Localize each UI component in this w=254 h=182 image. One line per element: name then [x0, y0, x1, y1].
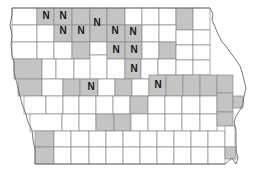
county-shaded [107, 8, 125, 25]
county-label-n: N [59, 10, 66, 21]
county [37, 25, 54, 42]
county-label-n: N [42, 10, 49, 21]
county-shaded [166, 75, 183, 96]
county [12, 8, 37, 25]
county-shaded [115, 79, 132, 96]
county [12, 42, 37, 59]
county-label-n: N [130, 44, 137, 55]
county-shaded [96, 114, 114, 131]
county-label-n: N [77, 25, 84, 36]
county-shaded [35, 131, 54, 147]
county [131, 114, 148, 131]
county [123, 131, 140, 147]
county-shaded [176, 8, 193, 30]
county [208, 131, 225, 147]
county-shaded [217, 93, 233, 112]
county [142, 25, 159, 42]
county-label-n: N [130, 63, 137, 74]
county-shaded [183, 75, 200, 96]
county-shaded [35, 147, 54, 164]
county [165, 96, 182, 114]
county [125, 8, 142, 25]
county-shaded [72, 8, 90, 25]
county [63, 96, 79, 114]
county [90, 42, 107, 55]
county [174, 147, 191, 164]
county [157, 147, 174, 164]
county [37, 42, 54, 59]
county [142, 42, 159, 59]
county [157, 131, 174, 147]
county-shaded [14, 59, 42, 79]
county-label-n: N [112, 44, 119, 55]
county [56, 59, 74, 79]
county [89, 131, 106, 147]
county [106, 131, 123, 147]
county [182, 96, 200, 114]
county [79, 114, 96, 131]
county-label-n: N [59, 25, 66, 36]
county [12, 25, 37, 42]
county [107, 59, 125, 79]
county-shaded [90, 25, 107, 42]
county-label-n: N [87, 81, 94, 92]
county-shaded [130, 96, 148, 114]
county [158, 59, 176, 75]
county-layer [12, 8, 243, 164]
county-label-n: N [93, 17, 100, 28]
county [71, 147, 89, 164]
county [123, 147, 140, 164]
county [208, 147, 225, 164]
county [148, 96, 165, 114]
county-shaded [217, 112, 233, 126]
county [148, 114, 165, 131]
county [182, 114, 200, 131]
county [98, 79, 115, 96]
county [96, 96, 113, 114]
county-shaded [159, 42, 176, 59]
county [200, 114, 217, 131]
county [71, 131, 89, 147]
county [42, 79, 63, 96]
county [24, 96, 46, 114]
county [193, 60, 210, 75]
county [54, 147, 71, 164]
county [54, 131, 71, 147]
county [140, 131, 157, 147]
county [200, 96, 217, 114]
iowa-county-map: NNNNNNNNNNNN [0, 0, 254, 182]
county [79, 96, 96, 114]
county-label-n: N [111, 25, 118, 36]
county [165, 114, 182, 131]
county [174, 131, 191, 147]
county [142, 8, 159, 25]
county [54, 42, 72, 59]
county [193, 30, 210, 45]
county [74, 59, 91, 79]
county [225, 126, 235, 147]
county [113, 96, 130, 114]
county [42, 59, 56, 79]
county [30, 114, 62, 131]
county-label-n: N [129, 26, 136, 37]
county [89, 147, 106, 164]
county [176, 60, 193, 75]
county [132, 79, 149, 96]
county [46, 96, 63, 114]
county-shaded [63, 79, 80, 96]
county [140, 147, 157, 164]
county-shaded [114, 114, 131, 131]
county [106, 147, 123, 164]
county-shaded [18, 79, 42, 96]
county [176, 30, 193, 45]
county [191, 147, 208, 164]
county [159, 25, 176, 42]
county-shaded [72, 42, 90, 59]
county-shaded [200, 75, 217, 96]
county [176, 45, 193, 60]
county-label-n: N [154, 79, 161, 90]
county [62, 114, 79, 131]
county-shaded [225, 147, 236, 159]
county [90, 55, 107, 79]
county [193, 8, 210, 30]
